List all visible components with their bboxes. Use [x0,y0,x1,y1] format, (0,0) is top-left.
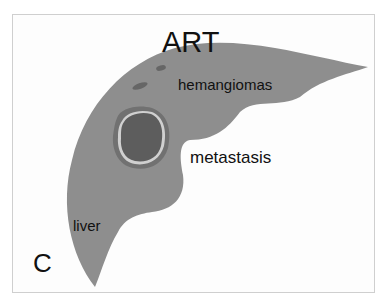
title-label: ART [162,28,219,57]
liver-label: liver [73,218,101,233]
hemangiomas-label: hemangiomas [178,77,272,92]
panel-letter: C [33,250,52,276]
metastasis-label: metastasis [190,149,271,166]
metastasis-core [121,113,162,161]
